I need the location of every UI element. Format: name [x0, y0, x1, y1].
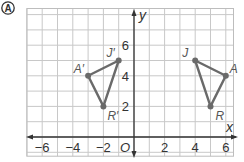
x-tick-label: 2 — [161, 140, 168, 155]
y-axis-up-arrow-icon — [132, 9, 137, 16]
x-tick-label: −2 — [96, 140, 111, 155]
x-tick-label: −6 — [35, 140, 50, 155]
vertex-label: R — [216, 109, 225, 123]
vertex-label: R′ — [107, 109, 119, 123]
origin-label: O — [120, 140, 130, 155]
y-tick-label: 2 — [122, 99, 129, 114]
vertex-label: A′ — [73, 62, 85, 76]
vertex-point — [100, 103, 106, 109]
coordinate-plane: A y x O −6−4−2246 246 JARJ′A′R′ — [0, 0, 244, 162]
vertex-point — [192, 58, 198, 64]
y-tick-label: 6 — [122, 38, 129, 53]
vertex-label: A — [229, 62, 238, 76]
triangle-original: JAR — [181, 46, 238, 124]
problem-label: A — [4, 3, 11, 14]
y-axis-down-arrow-icon — [132, 151, 137, 158]
triangle-image: J′A′R′ — [73, 46, 122, 124]
vertex-point — [208, 103, 214, 109]
x-tick-label: −4 — [65, 140, 80, 155]
x-tick-label: 4 — [192, 140, 199, 155]
y-axis-label: y — [138, 7, 147, 23]
triangles: JARJ′A′R′ — [73, 46, 238, 124]
problem-label-badge: A — [2, 2, 14, 14]
vertex-point — [223, 73, 229, 79]
y-tick-labels: 246 — [122, 38, 129, 114]
vertex-label: J — [181, 46, 189, 60]
y-tick-label: 4 — [122, 69, 129, 84]
x-tick-label: 6 — [222, 140, 229, 155]
vertex-label: J′ — [105, 46, 115, 60]
y-axis — [132, 9, 137, 158]
vertex-point — [116, 58, 122, 64]
x-axis-right-arrow-icon — [231, 135, 238, 140]
x-axis-label: x — [225, 119, 234, 135]
vertex-point — [85, 73, 91, 79]
